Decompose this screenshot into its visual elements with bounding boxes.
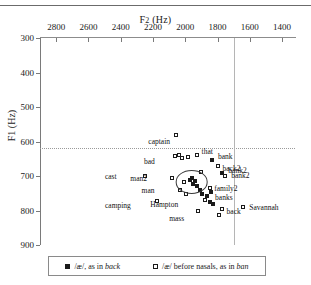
chart-legend: /æ/, as in back /æ/ before nasals, as in… [48,256,266,276]
data-point [223,174,227,178]
data-point [203,198,207,202]
data-point-label: cast [105,173,121,181]
data-point [216,164,220,168]
x-tick-mark [121,38,122,42]
x-tick-mark [185,38,186,42]
data-point [209,190,213,194]
data-point-label: that [202,148,213,156]
data-point [174,133,178,137]
data-point [170,176,174,180]
data-point [210,158,214,162]
legend-item-ban: /æ/ before nasals, as in ban [153,262,249,271]
data-point-label: mass [169,215,185,223]
data-point [155,199,159,203]
data-point [195,153,199,157]
y-tick-label: 300 [4,33,34,43]
data-point-label: bad [144,158,160,166]
y-tick-label: 800 [4,206,34,216]
y-tick-label: 900 [4,240,34,250]
x-tick-label: 2600 [79,22,97,32]
legend-marker-filled-square [65,264,70,269]
y-tick-label: 500 [4,102,34,112]
x-tick-mark [153,38,154,42]
x-tick-label: 1400 [273,22,291,32]
data-point [177,153,181,157]
chart-figure: F2 (Hz) F1 (Hz) 280026002400220020001800… [0,0,311,285]
x-tick-label: 2400 [112,22,130,32]
x-tick-mark [282,38,283,42]
x-tick-mark [88,38,89,42]
x-axis-line [40,37,296,38]
y-tick-label: 700 [4,171,34,181]
data-point-label: bank2 [231,172,249,180]
legend-label-example-word: ban [237,262,249,271]
data-point [217,213,221,217]
top-rule [0,5,311,6]
data-point-label: back [227,208,241,216]
data-point-label: family2 [214,185,237,193]
y-axis-title-sub: 1 [6,131,17,136]
data-point [196,209,200,213]
data-point-label: man [142,187,158,195]
y-tick-label: 600 [4,137,34,147]
x-tick-label: 2000 [176,22,194,32]
x-tick-mark [250,38,251,42]
data-point-label: man2 [130,175,146,183]
data-point [186,155,190,159]
x-tick-mark [56,38,57,42]
y-tick-label: 400 [4,68,34,78]
data-point-label: captain [148,138,164,146]
y-tick-mark [36,176,40,177]
legend-label-ban: /æ/ before nasals, as in ban [162,262,249,271]
legend-marker-open-square [153,264,158,269]
data-point [211,202,215,206]
y-axis-line [40,38,41,245]
x-tick-mark [218,38,219,42]
data-point-label: Savannah [249,204,278,212]
x-tick-label: 1800 [209,22,227,32]
data-point-label: bank [218,153,233,161]
reference-line-horizontal [40,148,295,149]
data-point-label: camping [105,202,121,210]
y-tick-mark [36,107,40,108]
cluster-ellipse-annotation [175,170,208,194]
x-tick-label: 2200 [144,22,162,32]
y-axis-title-unit: (Hz) [6,110,17,131]
data-point-label: banks [215,194,233,202]
y-tick-mark [36,73,40,74]
y-tick-mark [36,211,40,212]
data-point [220,207,224,211]
y-tick-mark [36,142,40,143]
x-tick-label: 1600 [241,22,259,32]
y-tick-mark [36,38,40,39]
legend-item-back: /æ/, as in back [65,262,120,271]
y-tick-mark [36,245,40,246]
data-point [241,205,245,209]
legend-label-back: /æ/, as in back [74,262,120,271]
legend-label-example-word: back [105,262,120,271]
x-tick-label: 2800 [47,22,65,32]
data-point [208,186,212,190]
